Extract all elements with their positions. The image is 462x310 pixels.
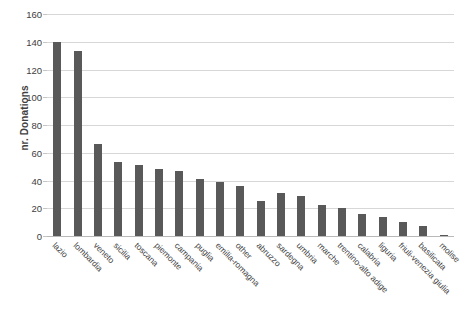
x-label-slot: toscana <box>128 238 148 310</box>
x-label-slot: basilicata <box>413 238 433 310</box>
x-label-slot: sicilia <box>108 238 128 310</box>
bar-slot <box>311 14 331 236</box>
bar[interactable] <box>379 217 387 236</box>
x-label-slot: friuli-venezia giulia <box>393 238 413 310</box>
plot-area: 020406080100120140160 <box>47 14 454 236</box>
bar[interactable] <box>257 201 265 236</box>
x-label-slot: puglia <box>189 238 209 310</box>
bar-slot <box>108 14 128 236</box>
bar[interactable] <box>338 208 346 236</box>
y-axis-tick-label: 140 <box>26 36 42 47</box>
bar-slot <box>230 14 250 236</box>
y-axis-tick-label: 120 <box>26 64 42 75</box>
bar[interactable] <box>53 42 61 236</box>
y-axis-tick-label: 80 <box>31 120 42 131</box>
y-axis-tick <box>43 236 47 237</box>
bar-slot <box>332 14 352 236</box>
bar[interactable] <box>94 144 102 236</box>
bar[interactable] <box>74 51 82 236</box>
bar-slot <box>149 14 169 236</box>
bar-slot <box>210 14 230 236</box>
x-label-slot: other <box>230 238 250 310</box>
y-axis-tick-label: 160 <box>26 9 42 20</box>
bar-slot <box>88 14 108 236</box>
bar[interactable] <box>399 222 407 236</box>
bar[interactable] <box>358 214 366 236</box>
bar-slot <box>373 14 393 236</box>
x-label-slot: abruzzo <box>250 238 270 310</box>
bar[interactable] <box>318 205 326 236</box>
bar[interactable] <box>135 165 143 236</box>
y-axis-tick-label: 20 <box>31 203 42 214</box>
x-label-slot: piemonte <box>149 238 169 310</box>
x-label-slot: molise <box>434 238 454 310</box>
bar[interactable] <box>440 235 448 236</box>
x-label-slot: sardegna <box>271 238 291 310</box>
x-label-slot: lazio <box>47 238 67 310</box>
bar[interactable] <box>277 193 285 236</box>
y-axis-tick-label: 40 <box>31 175 42 186</box>
bar-slot <box>393 14 413 236</box>
bar-slot <box>434 14 454 236</box>
bar[interactable] <box>114 162 122 236</box>
x-label-slot: marche <box>311 238 331 310</box>
x-label-slot: veneto <box>88 238 108 310</box>
bar-slot <box>128 14 148 236</box>
x-label-slot: liguria <box>373 238 393 310</box>
x-axis-tick-label: molise <box>437 241 461 265</box>
bar-slot <box>413 14 433 236</box>
bar-slot <box>291 14 311 236</box>
x-label-slot: umbria <box>291 238 311 310</box>
bar[interactable] <box>175 171 183 236</box>
x-label-slot: lombardia <box>67 238 87 310</box>
x-label-slot: campania <box>169 238 189 310</box>
bar-slot <box>47 14 67 236</box>
y-axis-tick-label: 60 <box>31 147 42 158</box>
bar[interactable] <box>236 186 244 236</box>
bar-series <box>47 14 454 236</box>
y-axis-tick-label: 0 <box>37 231 42 242</box>
bar-slot <box>189 14 209 236</box>
x-axis-labels: laziolombardiavenetosiciliatoscanapiemon… <box>47 238 454 310</box>
bar[interactable] <box>155 169 163 236</box>
bar-slot <box>169 14 189 236</box>
bar-slot <box>250 14 270 236</box>
y-axis-tick-label: 100 <box>26 92 42 103</box>
x-label-slot: emilia-romagna <box>210 238 230 310</box>
bar[interactable] <box>419 226 427 236</box>
bar-slot <box>352 14 372 236</box>
bar[interactable] <box>196 179 204 236</box>
bar[interactable] <box>297 196 305 236</box>
x-label-slot: trentino-alto adige <box>332 238 352 310</box>
bar-slot <box>271 14 291 236</box>
bar-slot <box>67 14 87 236</box>
bar[interactable] <box>216 182 224 236</box>
gridline <box>47 236 454 237</box>
x-label-slot: calabria <box>352 238 372 310</box>
